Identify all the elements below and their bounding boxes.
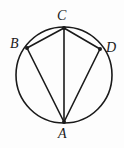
vertex-point-c [62, 26, 66, 30]
vertex-label-b: B [10, 37, 19, 51]
vertex-point-d [98, 47, 102, 51]
geometry-figure: A B C D [0, 0, 124, 148]
vertex-label-a: A [58, 127, 67, 141]
vertex-label-d: D [106, 41, 116, 55]
vertex-point-a [62, 120, 66, 124]
vertex-point-b [25, 46, 29, 50]
vertex-label-c: C [57, 9, 66, 23]
